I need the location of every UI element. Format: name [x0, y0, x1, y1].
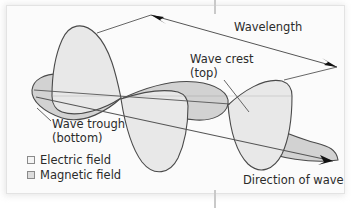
- label-wave-crest-sub: (top): [190, 67, 254, 81]
- legend: Electric field Magnetic field: [27, 152, 121, 182]
- legend-label-electric-field: Electric field: [40, 153, 111, 167]
- legend-swatch-electric-field: [27, 156, 35, 164]
- legend-label-magnetic-field: Magnetic field: [40, 168, 121, 182]
- label-wave-trough-sub: (bottom): [52, 132, 125, 146]
- wavelength-arrowhead-left: [151, 15, 166, 24]
- label-wave-trough-main: Wave trough: [52, 117, 125, 131]
- wavelength-tick-left: [97, 15, 151, 33]
- label-wave-crest: Wave crest (top): [190, 53, 254, 80]
- label-wavelength: Wavelength: [234, 21, 302, 35]
- legend-swatch-magnetic-field: [27, 171, 35, 179]
- label-wave-crest-main: Wave crest: [190, 52, 254, 66]
- legend-item-electric-field: Electric field: [27, 152, 121, 167]
- figure-root: Wavelength Wave crest (top) Wave trough …: [0, 0, 355, 208]
- label-wave-trough: Wave trough (bottom): [52, 118, 125, 145]
- wavelength-arrowhead-right: [322, 58, 337, 67]
- electric-field-trough-middle: [121, 91, 188, 172]
- electric-field-crest-left: [52, 26, 121, 114]
- legend-item-magnetic-field: Magnetic field: [27, 167, 121, 182]
- wavelength-tick-right: [284, 67, 337, 80]
- label-direction-of-wave: Direction of wave: [243, 174, 344, 188]
